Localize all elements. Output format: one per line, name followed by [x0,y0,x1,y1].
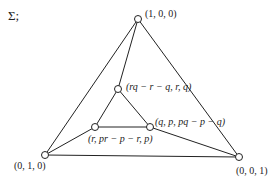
node-outer-top [135,16,142,23]
label-inner-top: (rq − r − q, r, q) [126,82,191,92]
label-outer-top: (1, 0, 0) [145,9,177,19]
label-inner-left: (r, pr − p − r, p) [88,134,153,144]
label-outer-left: (0, 1, 0) [14,161,46,171]
node-outer-left [42,152,49,159]
node-inner-top [115,86,122,93]
label-outer-right: (0, 0, 1) [236,166,268,176]
node-outer-right [236,154,243,161]
node-inner-right [147,124,154,131]
label-inner-right: (q, p, pq − p − q) [155,117,225,127]
simplex-diagram: Σ; (1, 0, 0) (0, 1, 0) (0, 0, 1) (rq − [0,0,277,179]
node-inner-left [92,124,99,131]
